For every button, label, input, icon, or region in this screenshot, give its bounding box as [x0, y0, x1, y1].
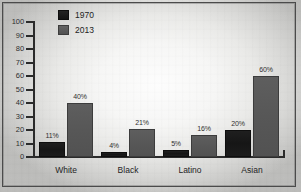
- y-axis-tick-10: [26, 143, 34, 145]
- y-axis-tick-40: [26, 102, 34, 104]
- category-label-white: White: [36, 165, 96, 175]
- legend-label-1970: 1970: [75, 9, 94, 21]
- y-axis-tick-30: [26, 116, 34, 118]
- y-axis-label-30: 30: [2, 113, 24, 121]
- legend-swatch-2013-icon: [58, 25, 69, 35]
- bar-1970-latino: [163, 150, 189, 157]
- y-axis-label-100: 100: [2, 18, 24, 26]
- bar-chart-plot-area: 0102030405060708090100 11%40%4%21%5%16%2…: [0, 0, 301, 192]
- value-label-1970-white: 11%: [36, 132, 68, 140]
- y-axis-label-10: 10: [2, 140, 24, 148]
- y-axis-tick-80: [26, 48, 34, 50]
- value-label-1970-asian: 20%: [222, 120, 254, 128]
- y-axis-tick-labels: 0102030405060708090100: [0, 0, 24, 192]
- y-axis-tick-100: [26, 21, 34, 23]
- bar-1970-white: [39, 142, 65, 157]
- value-label-2013-asian: 60%: [250, 66, 282, 74]
- y-axis-label-0: 0: [2, 153, 24, 161]
- y-axis-label-90: 90: [2, 32, 24, 40]
- y-axis-tick-20: [26, 129, 34, 131]
- y-axis-label-70: 70: [2, 59, 24, 67]
- bar-1970-asian: [225, 130, 251, 157]
- value-label-1970-black: 4%: [98, 142, 130, 150]
- value-label-2013-white: 40%: [64, 93, 96, 101]
- bar-2013-asian: [253, 76, 279, 157]
- bar-2013-black: [129, 129, 155, 157]
- chart-legend: 1970 2013: [58, 9, 128, 39]
- y-axis-tick-60: [26, 75, 34, 77]
- bar-2013-latino: [191, 135, 217, 157]
- value-label-1970-latino: 5%: [160, 140, 192, 148]
- legend-swatch-1970-icon: [58, 10, 69, 20]
- bar-2013-white: [67, 103, 93, 157]
- category-label-black: Black: [98, 165, 158, 175]
- y-axis-label-50: 50: [2, 86, 24, 94]
- y-axis-tick-70: [26, 62, 34, 64]
- y-axis-label-80: 80: [2, 45, 24, 53]
- category-label-asian: Asian: [222, 165, 282, 175]
- y-axis-tick-0: [26, 156, 34, 158]
- y-axis-tick-50: [26, 89, 34, 91]
- y-axis-tick-90: [26, 35, 34, 37]
- legend-label-2013: 2013: [75, 24, 94, 36]
- y-axis-label-20: 20: [2, 126, 24, 134]
- x-axis-end-tick: [283, 150, 285, 158]
- bar-1970-black: [101, 152, 127, 157]
- value-label-2013-black: 21%: [126, 119, 158, 127]
- y-axis-label-60: 60: [2, 72, 24, 80]
- category-label-latino: Latino: [160, 165, 220, 175]
- legend-item-2013: 2013: [58, 24, 128, 37]
- legend-item-1970: 1970: [58, 9, 128, 22]
- y-axis-label-40: 40: [2, 99, 24, 107]
- chart-screenshot: 0102030405060708090100 11%40%4%21%5%16%2…: [0, 0, 301, 192]
- value-label-2013-latino: 16%: [188, 125, 220, 133]
